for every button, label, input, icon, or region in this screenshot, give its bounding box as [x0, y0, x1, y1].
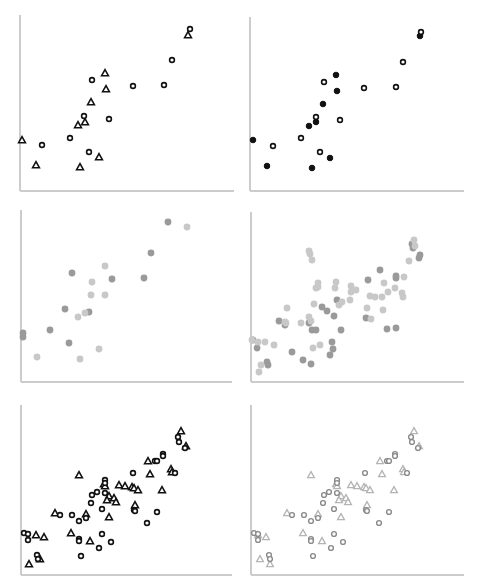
data-point — [132, 502, 139, 508]
data-point — [381, 280, 388, 287]
data-point — [298, 320, 305, 327]
data-point — [416, 446, 421, 451]
data-point — [365, 509, 370, 514]
data-point — [379, 294, 386, 301]
data-point — [362, 86, 367, 91]
data-point — [327, 352, 334, 359]
data-point — [87, 538, 94, 544]
data-point — [393, 325, 400, 332]
data-point — [70, 513, 75, 518]
data-point — [89, 279, 96, 286]
data-point — [161, 454, 166, 459]
data-point — [173, 471, 178, 476]
data-point — [82, 114, 87, 119]
data-point — [102, 263, 109, 270]
series-group-a — [20, 219, 172, 347]
data-point — [311, 554, 316, 559]
data-point — [363, 471, 368, 476]
data-point — [176, 435, 181, 440]
data-point — [84, 516, 89, 521]
data-point — [315, 284, 322, 291]
data-point — [309, 519, 314, 524]
data-point — [290, 513, 295, 518]
data-point — [76, 472, 83, 478]
data-point — [89, 501, 94, 506]
data-point — [377, 521, 382, 526]
panel-6 — [251, 405, 464, 575]
data-point — [393, 454, 398, 459]
data-point — [377, 458, 384, 464]
data-point — [102, 292, 109, 299]
data-point — [330, 346, 337, 353]
data-point — [405, 471, 410, 476]
data-point — [401, 274, 408, 281]
series-group-b — [34, 224, 191, 363]
data-point — [90, 493, 95, 498]
data-point — [96, 154, 103, 160]
data-point — [384, 326, 391, 333]
series-group-b — [271, 30, 424, 155]
data-point — [257, 556, 264, 562]
data-point — [401, 60, 406, 65]
data-point — [122, 483, 129, 489]
data-point — [148, 250, 155, 257]
data-point — [276, 318, 283, 325]
data-point — [41, 534, 48, 540]
data-point — [365, 277, 372, 284]
data-point — [263, 534, 270, 540]
data-point — [353, 287, 360, 294]
data-point — [20, 334, 27, 341]
data-point — [329, 339, 336, 346]
data-point — [320, 101, 326, 107]
data-point — [256, 532, 261, 537]
data-point — [103, 86, 110, 92]
data-point — [34, 354, 41, 361]
panel-5 — [21, 405, 232, 575]
data-point — [255, 339, 262, 346]
data-point — [306, 123, 312, 129]
data-point — [88, 292, 95, 299]
data-point — [77, 164, 84, 170]
data-point — [411, 428, 418, 434]
data-point — [322, 80, 327, 85]
data-point — [102, 70, 109, 76]
data-point — [331, 313, 338, 320]
data-point — [33, 162, 40, 168]
data-point — [155, 459, 160, 464]
data-point — [306, 248, 313, 255]
data-point — [87, 150, 92, 155]
data-point — [289, 349, 296, 356]
data-point — [299, 136, 304, 141]
data-point — [62, 306, 69, 313]
data-point — [309, 539, 314, 544]
data-point — [69, 270, 76, 277]
data-point — [162, 83, 167, 88]
data-point — [321, 501, 326, 506]
data-point — [58, 513, 63, 518]
data-point — [265, 362, 272, 369]
data-point — [36, 557, 41, 562]
data-point — [308, 472, 315, 478]
data-point — [116, 482, 123, 488]
data-point — [354, 483, 361, 489]
data-point — [387, 459, 392, 464]
series-group-b — [252, 435, 421, 562]
data-point — [264, 163, 270, 169]
data-point — [68, 136, 73, 141]
data-point — [100, 507, 105, 512]
data-point — [406, 258, 413, 265]
data-point — [159, 487, 166, 493]
data-point — [333, 279, 340, 286]
data-point — [300, 357, 307, 364]
data-point — [254, 345, 261, 352]
data-point — [185, 32, 192, 38]
data-point — [96, 346, 103, 353]
panel-4 — [249, 212, 464, 382]
series-group-b — [22, 435, 188, 562]
data-point — [368, 316, 375, 323]
data-point — [26, 538, 31, 543]
data-point — [411, 237, 418, 244]
panel-2 — [250, 17, 464, 191]
data-point — [302, 513, 307, 518]
data-point — [177, 440, 182, 445]
